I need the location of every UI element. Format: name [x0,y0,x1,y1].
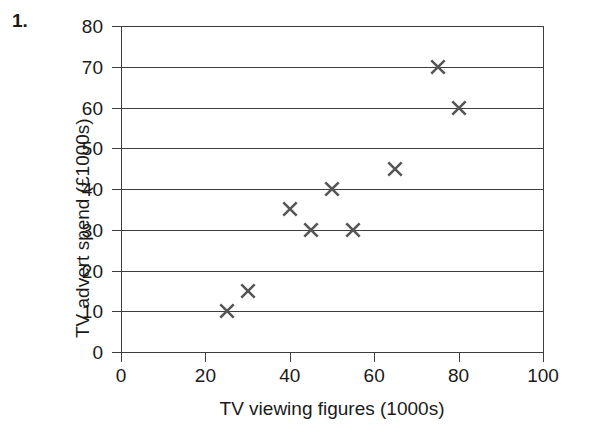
y-axis-tick-label: 10 [3,302,103,321]
gridline-y [121,26,543,27]
gridline-y [121,67,543,68]
scatter-plot-figure: 1. TV advert spend (£1000s) TV viewing f… [0,0,590,440]
x-axis-tick [543,352,544,362]
x-axis-tick-label: 0 [81,366,161,385]
x-axis-tick [459,352,460,362]
x-axis-line [121,352,543,353]
y-axis-tick-label: 50 [3,139,103,158]
y-axis-tick [112,108,121,109]
y-axis-tick-label: 40 [3,180,103,199]
y-axis-tick [112,67,121,68]
gridline-y [121,271,543,272]
x-axis-tick [121,352,122,362]
plot-area [121,26,543,352]
y-axis-tick [112,271,121,272]
x-axis-tick-label: 60 [334,366,414,385]
plot-right-border [543,26,544,352]
x-axis-tick [374,352,375,362]
x-axis-title: TV viewing figures (1000s) [121,398,543,420]
y-axis-tick-label: 70 [3,58,103,77]
y-axis-tick-label: 30 [3,221,103,240]
y-axis-tick-label: 20 [3,262,103,281]
gridline-y [121,311,543,312]
gridline-y [121,108,543,109]
gridline-y [121,189,543,190]
x-axis-tick [290,352,291,362]
x-axis-tick-label: 80 [419,366,499,385]
x-axis-tick-label: 20 [165,366,245,385]
x-axis-tick [205,352,206,362]
y-axis-tick [112,189,121,190]
y-axis-tick [112,311,121,312]
gridline-y [121,148,543,149]
y-axis-line [121,26,122,352]
x-axis-tick-label: 40 [250,366,330,385]
y-axis-tick-label: 80 [3,17,103,36]
y-axis-tick [112,26,121,27]
y-axis-tick-label: 0 [3,343,103,362]
y-axis-tick [112,352,121,353]
y-axis-tick-label: 60 [3,99,103,118]
gridline-y [121,230,543,231]
y-axis-tick [112,148,121,149]
y-axis-tick [112,230,121,231]
x-axis-tick-label: 100 [503,366,583,385]
